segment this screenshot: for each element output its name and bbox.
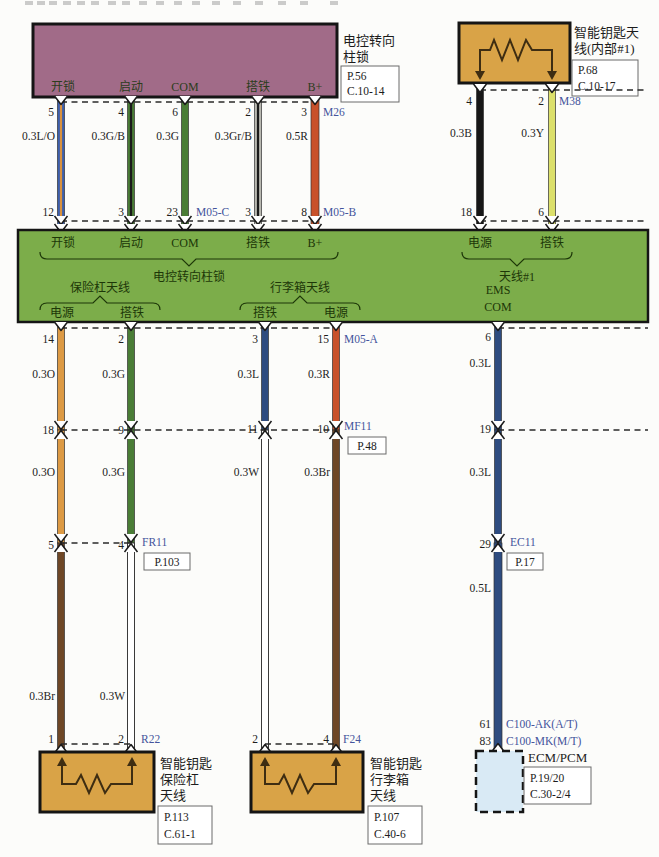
group-label-antenna1: 天线#1: [499, 270, 535, 284]
band-label-ems: EMS: [486, 283, 511, 297]
pin-number: 2: [118, 733, 124, 745]
connector-id-m38: M38: [559, 95, 581, 107]
wire-label: 0.3L: [470, 357, 491, 369]
page-ref: P.19/20: [530, 772, 564, 784]
module-name-line3: 天线: [160, 788, 186, 803]
page-ref: P.56: [347, 70, 367, 82]
pin-number: 12: [43, 206, 55, 218]
connector-id-ec11: EC11: [510, 536, 536, 548]
pin-number: 6: [485, 331, 491, 343]
seg3-wire-labels: 0.3Br 0.3W: [29, 690, 125, 702]
pin-number: 6: [172, 106, 178, 118]
wire-label: 0.3L: [238, 368, 259, 380]
pin-number: 5: [48, 539, 54, 551]
pin-number: 6: [538, 206, 544, 218]
bumper-antenna-module: 智能钥匙 保险杠 天线 P.113 C.61-1: [40, 752, 212, 844]
band-pin-ground: 搭铁: [253, 306, 277, 320]
smart-key-unit-band: 开锁 启动 COM 搭铁 B+ 电控转向柱锁 电源 搭铁 天线#1 保险杠天线 …: [18, 230, 648, 322]
connector-id-m05c: M05-C: [196, 206, 230, 218]
steering-lock-module: 开锁 启动 COM 搭铁 B+ 电控转向 柱锁 P.56 C.10-14: [33, 24, 399, 102]
connector-id-m05a: M05-A: [344, 333, 379, 345]
wire-label: 0.5R: [286, 130, 308, 142]
pin-number: 4: [323, 733, 329, 745]
pin-number: 4: [118, 106, 124, 118]
steering-lock-connector-top: 5 4 6 2 3 M26: [48, 96, 345, 118]
wire-label: 0.3G: [102, 368, 125, 380]
page-ref: P.48: [357, 440, 377, 452]
wire-label: 0.3R: [308, 368, 330, 380]
pin-number: 2: [538, 95, 544, 107]
pin-label-unlock: 开锁: [51, 79, 75, 94]
page-ref: P.113: [164, 811, 189, 823]
pin-number: 5: [48, 106, 54, 118]
bumper-antenna-box: [40, 752, 154, 812]
module-name-line3: 天线: [370, 788, 396, 803]
wire-label: 0.3B: [450, 127, 472, 139]
pin-number: 3: [252, 333, 258, 345]
pin-number: 18: [461, 206, 473, 218]
connector-ref: C.10-14: [347, 85, 385, 97]
steering-lock-wire-labels: 0.3L/O 0.3G/B 0.3G 0.3Gr/B 0.5R: [22, 130, 308, 142]
connector-id-m26: M26: [323, 106, 345, 118]
band-pin-start: 启动: [119, 236, 143, 250]
wire-label: 0.3L/O: [22, 130, 55, 142]
wire-label: 0.3G: [156, 130, 179, 142]
wire-label: 0.3O: [32, 466, 55, 478]
pin-number: 3: [301, 106, 307, 118]
module-name-line1: 智能钥匙: [370, 756, 422, 771]
band-pin-power: 电源: [468, 236, 492, 250]
band-pin-ground: 搭铁: [246, 236, 270, 250]
trunk-antenna-box: [251, 752, 363, 812]
wire-label: 0.3W: [234, 466, 259, 478]
pin-label-ground: 搭铁: [246, 80, 270, 94]
junction-ec11: 29 EC11 P.17 0.5L: [470, 534, 543, 594]
connector-id-m05b: M05-B: [323, 206, 357, 218]
pin-number: 11: [247, 423, 258, 435]
lower-wires-seg2: [58, 430, 502, 752]
band-pin-com: COM: [171, 236, 199, 250]
group-label-steering-lock: 电控转向柱锁: [153, 269, 225, 284]
wire-label: 0.3Br: [304, 466, 330, 478]
band-pin-power: 电源: [324, 306, 348, 320]
lower-wires-seg3: [58, 543, 503, 752]
connector-id-fr11: FR11: [142, 536, 167, 548]
module-name-line1: 智能钥匙天: [574, 25, 639, 40]
wire-label: 0.3G/B: [91, 130, 125, 142]
pin-number: 2: [245, 106, 251, 118]
wire-stripe: [130, 99, 132, 230]
pin-number: 9: [118, 424, 124, 436]
pin-number: 4: [466, 95, 472, 107]
module-name-line2: 线(内部#1): [574, 41, 635, 56]
connector-id-r22: R22: [141, 733, 160, 745]
connector-id-c100mk: C100-MK(M/T): [506, 735, 582, 748]
connector-id-c100ak: C100-AK(A/T): [506, 718, 578, 731]
connector-id-f24: F24: [343, 733, 361, 745]
pin-number: 14: [43, 333, 55, 345]
wire-label: 0.3O: [32, 368, 55, 380]
cropped-header-text: [25, 1, 338, 5]
wire-label: 0.3L: [470, 466, 491, 478]
band-pin-ground: 搭铁: [540, 236, 564, 250]
pin-number: 2: [252, 733, 258, 745]
steering-lock-wires: [58, 99, 320, 230]
band-label-com: COM: [484, 300, 512, 314]
trunk-antenna-module: 智能钥匙 行李箱 天线 P.107 C.40-6: [251, 752, 422, 844]
pin-number: 3: [245, 206, 251, 218]
steering-lock-connector-bottom: 12 3 23 3 8 M05-C M05-B: [43, 206, 357, 233]
module-name-line1: 智能钥匙: [160, 756, 212, 771]
module-name-line2: 行李箱: [370, 772, 409, 787]
band-pin-ground: 搭铁: [120, 306, 144, 320]
module-name: ECM/PCM: [528, 750, 588, 765]
pin-number: 10: [318, 423, 330, 435]
pin-number: 3: [118, 206, 124, 218]
pin-number: 19: [480, 423, 492, 435]
pin-number: 8: [301, 206, 307, 218]
wire-stripe: [60, 99, 62, 230]
group-label-bumper-antenna: 保险杠天线: [70, 280, 130, 295]
wire-label: 0.3Gr/B: [215, 130, 253, 142]
junction-fr11: 5 4 FR11 P.103: [48, 534, 190, 570]
wire-label: 0.3Y: [521, 127, 544, 139]
pin-number: 15: [318, 333, 330, 345]
wire-label: 0.3W: [100, 690, 125, 702]
module-name-line1: 电控转向: [343, 33, 395, 48]
